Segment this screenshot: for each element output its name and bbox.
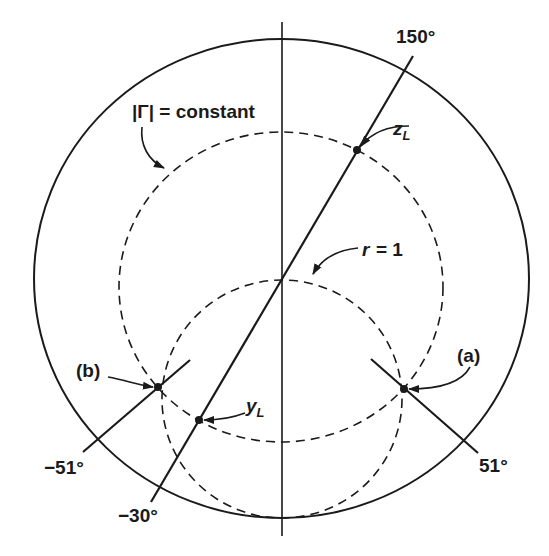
diagram-canvas: |Γ| = constant 150° r = 1 (a) (b) 51° −5… (0, 0, 549, 556)
label-150: 150° (396, 26, 435, 47)
line-51-deg (371, 359, 478, 453)
label-gamma-constant: |Γ| = constant (132, 101, 256, 122)
label-51: 51° (479, 455, 508, 476)
label-r1-eq: = 1 (376, 239, 403, 260)
point-b (154, 383, 162, 391)
label-zL: zL (392, 118, 411, 143)
label-neg30: −30° (118, 505, 158, 526)
label-yL: yL (245, 395, 265, 420)
label-b: (b) (76, 360, 100, 381)
label-r1: r (362, 239, 371, 260)
arrow-gamma-label (142, 127, 164, 168)
point-yL (195, 416, 203, 424)
gamma-constant-circle (119, 132, 443, 442)
arrow-r1 (313, 248, 358, 274)
point-zL (353, 146, 361, 154)
label-a: (a) (457, 345, 480, 366)
arrow-b (108, 377, 153, 387)
label-neg51: −51° (44, 457, 84, 478)
smith-chart-diagram: |Γ| = constant 150° r = 1 (a) (b) 51° −5… (0, 0, 549, 556)
point-a (400, 385, 408, 393)
arrow-yL (204, 413, 245, 420)
arrow-a (409, 367, 470, 389)
